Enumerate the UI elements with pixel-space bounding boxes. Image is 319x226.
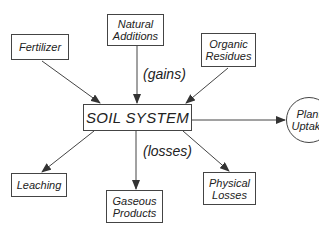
natural-additions-label: Natural Additions xyxy=(108,18,163,42)
arrow-fertilizer-to-soil xyxy=(42,61,100,103)
physical-losses-node: Physical Losses xyxy=(203,172,256,205)
soil-system-label: SOIL SYSTEM xyxy=(86,112,189,124)
organic-residues-label: Organic Residues xyxy=(202,38,255,62)
plant-uptake-label: Plant Uptake xyxy=(287,108,319,132)
organic-residues-node: Organic Residues xyxy=(201,33,256,67)
arrow-soil-to-leaching xyxy=(42,131,94,172)
physical-losses-label: Physical Losses xyxy=(204,177,255,201)
losses-annotation: (losses) xyxy=(143,143,192,159)
gaseous-products-node: Gaseous Products xyxy=(106,190,163,223)
leaching-node: Leaching xyxy=(11,173,67,197)
fertilizer-node: Fertilizer xyxy=(11,34,69,60)
gains-annotation: (gains) xyxy=(143,66,186,82)
leaching-label: Leaching xyxy=(17,179,62,191)
arrow-organic-to-soil xyxy=(186,68,228,103)
fertilizer-label: Fertilizer xyxy=(19,41,61,53)
natural-additions-node: Natural Additions xyxy=(107,14,164,46)
gaseous-products-label: Gaseous Products xyxy=(107,195,162,219)
soil-system-node: SOIL SYSTEM xyxy=(83,104,192,131)
